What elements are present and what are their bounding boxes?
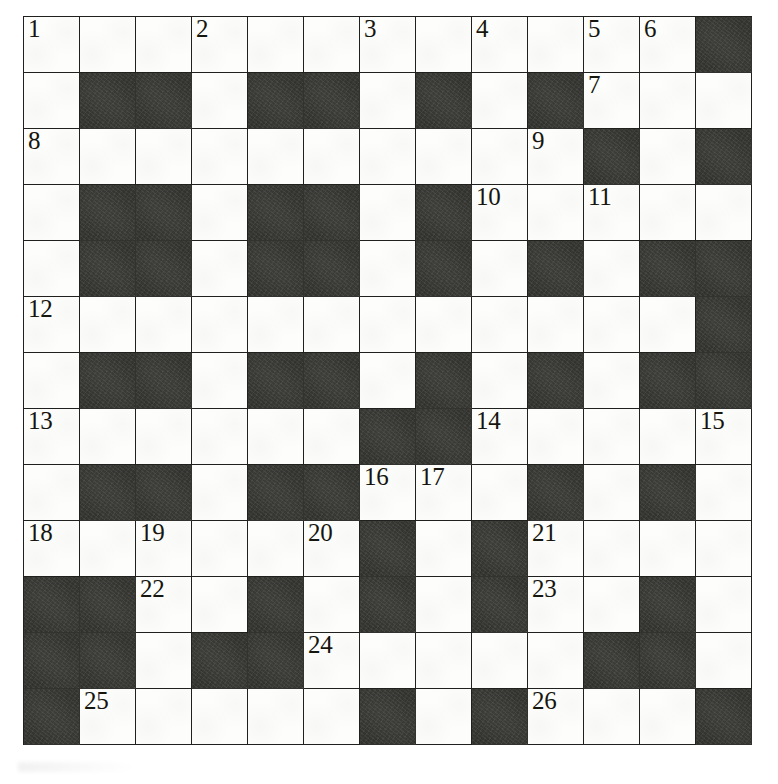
open-cell[interactable] <box>416 521 472 577</box>
open-cell[interactable] <box>304 17 360 73</box>
open-cell[interactable]: 15 <box>696 409 752 465</box>
open-cell[interactable] <box>416 17 472 73</box>
open-cell[interactable] <box>584 409 640 465</box>
open-cell[interactable]: 23 <box>528 577 584 633</box>
open-cell[interactable] <box>24 465 80 521</box>
open-cell[interactable] <box>696 577 752 633</box>
open-cell[interactable] <box>696 73 752 129</box>
open-cell[interactable] <box>584 521 640 577</box>
open-cell[interactable] <box>584 241 640 297</box>
open-cell[interactable] <box>136 297 192 353</box>
open-cell[interactable] <box>584 353 640 409</box>
open-cell[interactable] <box>360 73 416 129</box>
open-cell[interactable]: 26 <box>528 689 584 745</box>
open-cell[interactable]: 1 <box>24 17 80 73</box>
open-cell[interactable] <box>528 409 584 465</box>
open-cell[interactable] <box>136 129 192 185</box>
open-cell[interactable]: 21 <box>528 521 584 577</box>
open-cell[interactable]: 24 <box>304 633 360 689</box>
open-cell[interactable]: 17 <box>416 465 472 521</box>
open-cell[interactable] <box>640 521 696 577</box>
open-cell[interactable] <box>304 577 360 633</box>
open-cell[interactable] <box>136 633 192 689</box>
open-cell[interactable]: 18 <box>24 521 80 577</box>
open-cell[interactable] <box>696 185 752 241</box>
open-cell[interactable] <box>192 353 248 409</box>
open-cell[interactable]: 14 <box>472 409 528 465</box>
open-cell[interactable] <box>472 633 528 689</box>
open-cell[interactable] <box>248 129 304 185</box>
open-cell[interactable] <box>640 129 696 185</box>
open-cell[interactable] <box>472 465 528 521</box>
open-cell[interactable] <box>360 353 416 409</box>
open-cell[interactable] <box>24 241 80 297</box>
open-cell[interactable] <box>584 689 640 745</box>
open-cell[interactable] <box>584 465 640 521</box>
open-cell[interactable] <box>696 633 752 689</box>
open-cell[interactable] <box>248 521 304 577</box>
open-cell[interactable] <box>416 633 472 689</box>
open-cell[interactable] <box>80 409 136 465</box>
open-cell[interactable] <box>528 633 584 689</box>
open-cell[interactable] <box>640 73 696 129</box>
open-cell[interactable]: 12 <box>24 297 80 353</box>
open-cell[interactable] <box>304 297 360 353</box>
open-cell[interactable] <box>584 577 640 633</box>
open-cell[interactable]: 13 <box>24 409 80 465</box>
open-cell[interactable]: 3 <box>360 17 416 73</box>
open-cell[interactable] <box>192 465 248 521</box>
open-cell[interactable]: 8 <box>24 129 80 185</box>
open-cell[interactable] <box>640 297 696 353</box>
open-cell[interactable] <box>248 17 304 73</box>
open-cell[interactable] <box>360 185 416 241</box>
open-cell[interactable] <box>192 577 248 633</box>
open-cell[interactable]: 11 <box>584 185 640 241</box>
open-cell[interactable] <box>472 353 528 409</box>
open-cell[interactable] <box>304 409 360 465</box>
open-cell[interactable]: 10 <box>472 185 528 241</box>
open-cell[interactable] <box>304 129 360 185</box>
open-cell[interactable]: 19 <box>136 521 192 577</box>
open-cell[interactable] <box>472 73 528 129</box>
open-cell[interactable] <box>360 297 416 353</box>
open-cell[interactable] <box>24 73 80 129</box>
open-cell[interactable] <box>416 577 472 633</box>
open-cell[interactable]: 20 <box>304 521 360 577</box>
open-cell[interactable] <box>416 689 472 745</box>
open-cell[interactable] <box>416 297 472 353</box>
open-cell[interactable] <box>584 297 640 353</box>
open-cell[interactable]: 2 <box>192 17 248 73</box>
open-cell[interactable] <box>192 689 248 745</box>
open-cell[interactable] <box>304 689 360 745</box>
open-cell[interactable] <box>528 297 584 353</box>
open-cell[interactable]: 9 <box>528 129 584 185</box>
open-cell[interactable] <box>640 409 696 465</box>
open-cell[interactable] <box>80 17 136 73</box>
open-cell[interactable]: 16 <box>360 465 416 521</box>
open-cell[interactable] <box>472 129 528 185</box>
open-cell[interactable] <box>192 521 248 577</box>
open-cell[interactable] <box>696 465 752 521</box>
open-cell[interactable] <box>248 689 304 745</box>
open-cell[interactable] <box>640 689 696 745</box>
open-cell[interactable]: 22 <box>136 577 192 633</box>
open-cell[interactable] <box>360 633 416 689</box>
open-cell[interactable] <box>192 73 248 129</box>
open-cell[interactable]: 7 <box>584 73 640 129</box>
open-cell[interactable] <box>80 297 136 353</box>
open-cell[interactable] <box>24 185 80 241</box>
open-cell[interactable] <box>136 689 192 745</box>
open-cell[interactable] <box>472 241 528 297</box>
open-cell[interactable] <box>696 521 752 577</box>
open-cell[interactable] <box>192 409 248 465</box>
crossword-grid[interactable]: 1234567891011121314151617181920212223242… <box>23 16 752 745</box>
open-cell[interactable] <box>360 129 416 185</box>
open-cell[interactable] <box>248 409 304 465</box>
open-cell[interactable] <box>136 409 192 465</box>
open-cell[interactable]: 4 <box>472 17 528 73</box>
open-cell[interactable] <box>416 129 472 185</box>
open-cell[interactable] <box>192 297 248 353</box>
open-cell[interactable] <box>24 353 80 409</box>
open-cell[interactable] <box>80 129 136 185</box>
open-cell[interactable] <box>528 17 584 73</box>
